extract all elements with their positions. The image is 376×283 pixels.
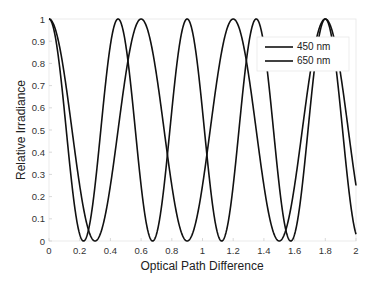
x-tick-label: 1.6 bbox=[288, 245, 301, 256]
x-tick-label: 1.8 bbox=[319, 245, 332, 256]
x-tick-label: 0.6 bbox=[134, 245, 147, 256]
y-tick-label: 0.7 bbox=[32, 80, 45, 91]
x-axis-label: Optical Path Difference bbox=[140, 259, 264, 273]
y-tick-label: 0.9 bbox=[32, 36, 45, 47]
x-tick-label: 0.2 bbox=[73, 245, 86, 256]
y-tick-label: 0.8 bbox=[32, 58, 45, 69]
x-tick-label: 0.8 bbox=[165, 245, 178, 256]
y-tick-label: 0.6 bbox=[32, 102, 45, 113]
legend-label-650: 650 nm bbox=[297, 55, 330, 66]
x-tick-label: 1.2 bbox=[227, 245, 240, 256]
chart: 00.20.40.60.811.21.41.61.8200.10.20.30.4… bbox=[0, 0, 376, 283]
y-tick-label: 0.2 bbox=[32, 191, 45, 202]
y-tick-label: 1 bbox=[40, 14, 45, 25]
y-tick-label: 0.3 bbox=[32, 169, 45, 180]
y-axis-label: Relative Irradiance bbox=[14, 80, 28, 180]
y-tick-label: 0.5 bbox=[32, 125, 45, 136]
x-tick-label: 0 bbox=[46, 245, 51, 256]
x-tick-label: 2 bbox=[353, 245, 358, 256]
legend: 450 nm 650 nm bbox=[257, 37, 349, 71]
y-tick-label: 0 bbox=[40, 236, 45, 247]
x-tick-label: 0.4 bbox=[104, 245, 117, 256]
x-tick-label: 1 bbox=[200, 245, 205, 256]
y-tick-label: 0.4 bbox=[32, 147, 45, 158]
y-tick-label: 0.1 bbox=[32, 213, 45, 224]
x-tick-label: 1.4 bbox=[257, 245, 270, 256]
legend-label-450: 450 nm bbox=[297, 41, 330, 52]
